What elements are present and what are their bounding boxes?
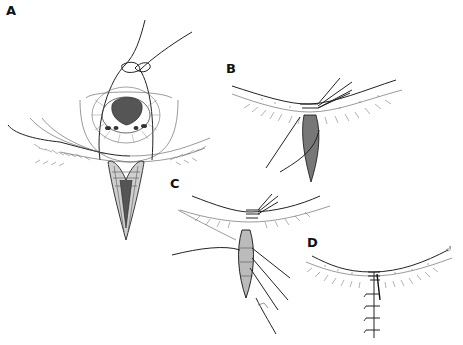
- panel-c-drawing: [172, 194, 330, 334]
- panel-b-drawing: [232, 78, 402, 182]
- surgical-illustration: A B C D: [0, 0, 463, 345]
- illustration-drawing: [0, 0, 463, 345]
- panel-a-drawing: [8, 20, 210, 240]
- panel-d-drawing: [306, 246, 452, 338]
